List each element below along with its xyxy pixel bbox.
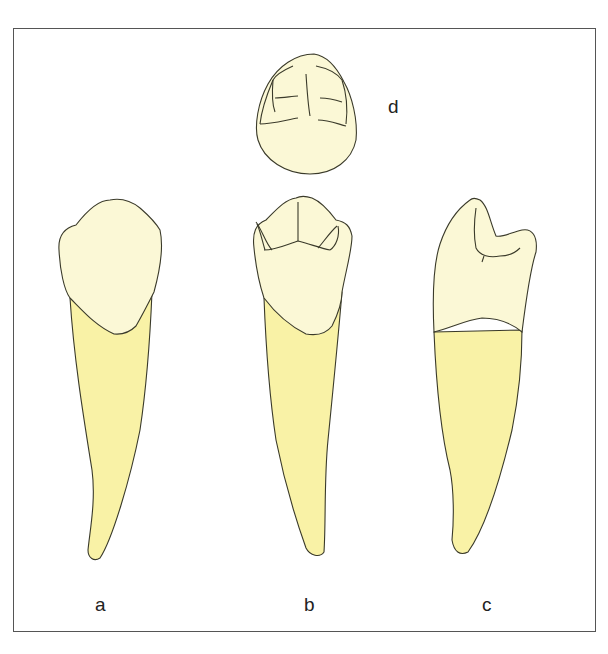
label-view-d: d [388, 96, 399, 118]
tooth-illustration [0, 0, 608, 654]
crown-c [433, 199, 536, 333]
tooth-view-b [254, 197, 353, 556]
crown-d [256, 54, 356, 174]
label-view-c: c [482, 594, 492, 616]
label-view-b: b [304, 594, 315, 616]
tooth-view-c [433, 199, 536, 554]
tooth-view-d [256, 54, 356, 174]
tooth-view-a [59, 199, 162, 559]
root-c [434, 330, 522, 554]
label-view-a: a [95, 594, 106, 616]
